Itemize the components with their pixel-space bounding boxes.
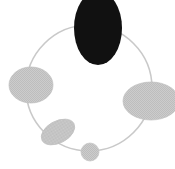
diagram-canvas bbox=[0, 0, 175, 169]
diagram-contents bbox=[0, 0, 175, 169]
node-bottom[interactable] bbox=[81, 143, 99, 161]
diagram-svg bbox=[0, 0, 175, 169]
node-right[interactable] bbox=[123, 82, 175, 120]
node-left[interactable] bbox=[9, 67, 53, 103]
